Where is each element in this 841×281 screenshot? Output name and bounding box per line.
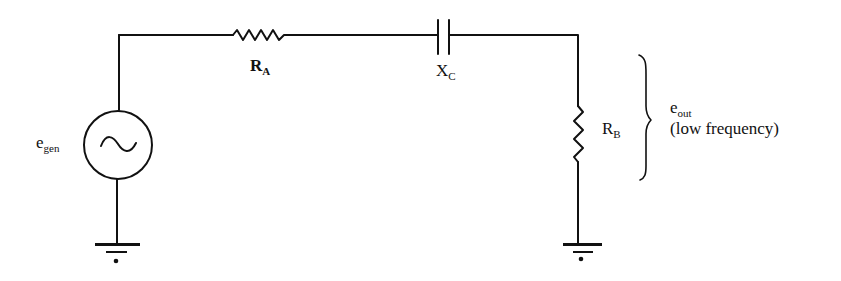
ground-left-icon	[95, 243, 140, 263]
resistor-rb-icon	[574, 106, 583, 162]
label-ra: RA	[250, 56, 270, 76]
label-egen: egen	[36, 133, 59, 153]
label-low-frequency: (low frequency)	[670, 119, 779, 139]
ground-right-icon	[563, 243, 602, 261]
resistor-ra-icon	[233, 30, 287, 40]
label-xc: XC	[436, 61, 456, 81]
label-eout: eout	[670, 98, 692, 118]
sine-wave-icon	[101, 137, 136, 151]
label-rb: RB	[602, 119, 621, 139]
wire-capacitor-to-right	[449, 35, 578, 106]
circuit-diagram	[0, 0, 841, 281]
capacitor-xc-icon	[438, 20, 449, 54]
output-brace-icon	[639, 55, 651, 180]
